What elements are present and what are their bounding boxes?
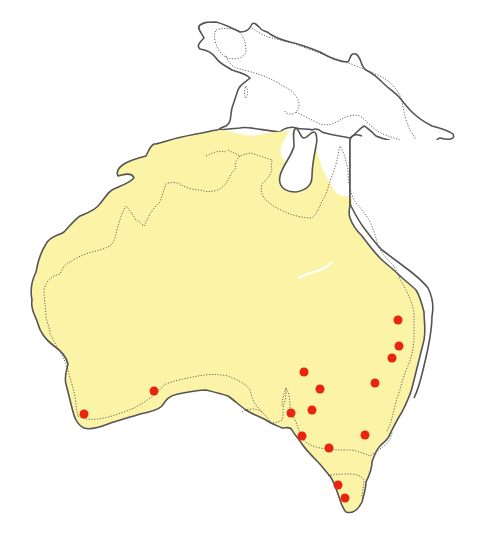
site-marker — [300, 368, 309, 377]
site-marker — [334, 481, 343, 490]
site-marker — [325, 444, 334, 453]
site-marker — [80, 410, 89, 419]
site-marker — [308, 406, 317, 415]
site-marker — [361, 431, 370, 440]
site-marker — [341, 494, 350, 503]
australia-distribution-map — [0, 0, 479, 544]
site-marker — [287, 409, 296, 418]
australia-mainland — [31, 128, 479, 513]
site-marker — [394, 316, 403, 325]
site-marker — [371, 379, 380, 388]
site-marker — [395, 342, 404, 351]
site-marker — [150, 387, 159, 396]
site-marker — [388, 354, 397, 363]
site-marker — [298, 432, 307, 441]
site-marker — [316, 385, 325, 394]
